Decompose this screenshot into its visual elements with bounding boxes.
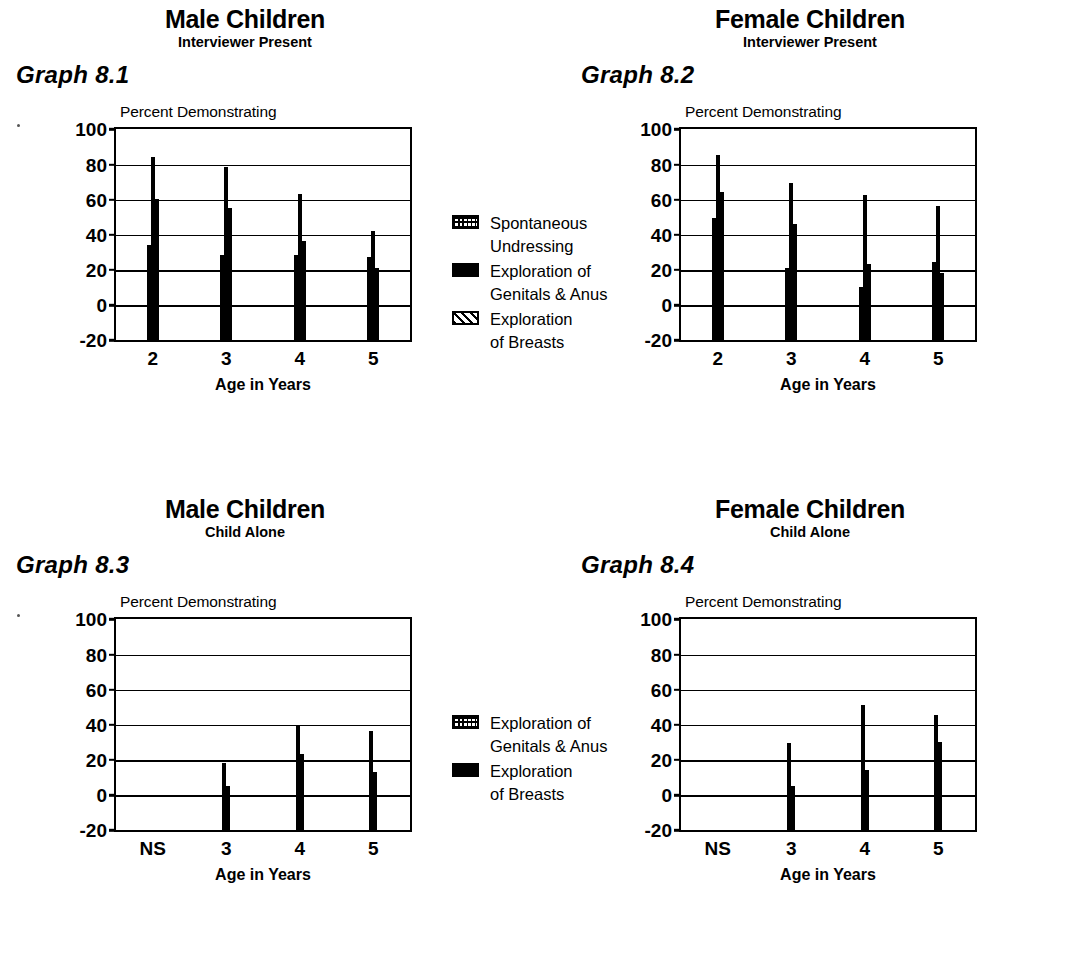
bar (865, 770, 869, 831)
x-axis-title: Age in Years (681, 376, 975, 394)
bar-group (828, 129, 902, 340)
y-axis-tick-mark (109, 724, 116, 726)
bar (940, 273, 944, 341)
x-axis-tick-label: NS (140, 838, 166, 860)
chart-title: Female Children (610, 496, 1010, 522)
x-axis-title: Age in Years (681, 866, 975, 884)
chart-title: Male Children (45, 496, 445, 522)
y-axis-tick-mark (674, 794, 681, 796)
plot-area-wrapper: 100806040200-20NS345Age in Years (62, 617, 412, 832)
y-axis-tick-mark (674, 339, 681, 341)
y-axis-tick-mark (674, 653, 681, 655)
plot-area: 100806040200-20NS345Age in Years (679, 617, 977, 832)
bar-group (190, 619, 264, 830)
x-axis-tick-label: 4 (294, 838, 305, 860)
y-axis-tick-mark (109, 689, 116, 691)
bar-group (190, 129, 264, 340)
plot-area-wrapper: 100806040200-202345Age in Years (62, 127, 412, 342)
y-axis-tick-mark (674, 234, 681, 236)
chart-panel-graph-8-2: Female Children Interviewer Present Grap… (575, 6, 1075, 476)
chart-panel-graph-8-3: Male Children Child Alone Graph 8.3 Perc… (10, 496, 510, 961)
legend-swatch-diag-icon (452, 311, 479, 325)
legend-item-label: Exploration of Breasts (490, 308, 573, 355)
legend-item-label: Exploration of Genitals & Anus (490, 260, 607, 307)
chart-subtitle: Interviewer Present (45, 33, 445, 51)
chart-title-block: Female Children Interviewer Present (610, 6, 1010, 51)
bar-group (755, 129, 829, 340)
y-axis-tick-mark (109, 269, 116, 271)
y-axis-tick-mark (674, 128, 681, 130)
bar (375, 268, 379, 341)
y-axis-tick-mark (109, 829, 116, 831)
bar (228, 208, 232, 341)
figure-sheet: Male Children Interviewer Present Graph … (0, 0, 1075, 961)
y-axis-title: Percent Demonstrating (120, 593, 510, 611)
y-axis-tick-mark (109, 199, 116, 201)
x-axis-tick-label: 5 (368, 838, 379, 860)
x-axis-tick-label: NS (705, 838, 731, 860)
x-axis-tick-label: 3 (221, 348, 232, 370)
bar-group (263, 619, 337, 830)
plot-area: 100806040200-202345Age in Years (679, 127, 977, 342)
y-axis-tick-mark (109, 794, 116, 796)
bar (155, 199, 159, 340)
y-axis-title: Percent Demonstrating (120, 103, 510, 121)
legend-swatch-solid-icon (452, 763, 479, 777)
x-axis-title: Age in Years (116, 376, 410, 394)
bar (226, 786, 230, 831)
legend-child-alone: Exploration of Genitals & AnusExploratio… (452, 712, 607, 808)
bar-group (263, 129, 337, 340)
scan-speck (17, 124, 20, 127)
bar-group (116, 129, 190, 340)
legend-item-label: Spontaneous Undressing (490, 212, 587, 259)
chart-panel-graph-8-4: Female Children Child Alone Graph 8.4 Pe… (575, 496, 1075, 961)
bar-series-container (681, 129, 975, 340)
x-axis-tick-label: 2 (147, 348, 158, 370)
x-axis-tick-label: 5 (933, 348, 944, 370)
x-axis-tick-label: 4 (294, 348, 305, 370)
bar-group (681, 619, 755, 830)
x-axis-tick-label: 3 (786, 838, 797, 860)
y-axis-tick-mark (674, 618, 681, 620)
y-axis-tick-mark (674, 689, 681, 691)
chart-subtitle: Child Alone (45, 523, 445, 541)
plot-area: 100806040200-20NS345Age in Years (114, 617, 412, 832)
graph-number-label: Graph 8.1 (16, 61, 510, 89)
y-axis-tick-mark (674, 269, 681, 271)
y-axis-title: Percent Demonstrating (685, 593, 1075, 611)
bar (867, 264, 871, 340)
y-axis-tick-mark (109, 339, 116, 341)
legend-item-label: Exploration of Genitals & Anus (490, 712, 607, 759)
x-axis-tick-label: 4 (859, 838, 870, 860)
bar-series-container (116, 129, 410, 340)
x-axis-tick-label: 3 (221, 838, 232, 860)
plot-area-wrapper: 100806040200-20NS345Age in Years (627, 617, 977, 832)
plot-area: 100806040200-202345Age in Years (114, 127, 412, 342)
scan-speck (17, 614, 20, 617)
chart-title-block: Male Children Interviewer Present (45, 6, 445, 51)
chart-title: Male Children (45, 6, 445, 32)
legend-item: Exploration of Breasts (452, 760, 607, 807)
graph-number-label: Graph 8.4 (581, 551, 1075, 579)
chart-panel-graph-8-1: Male Children Interviewer Present Graph … (10, 6, 510, 476)
y-axis-tick-mark (674, 829, 681, 831)
y-axis-tick-mark (674, 163, 681, 165)
x-axis-tick-label: 2 (712, 348, 723, 370)
bar (302, 241, 306, 340)
legend-swatch-solid-icon (452, 263, 479, 277)
bar (938, 742, 942, 831)
y-axis-tick-mark (674, 199, 681, 201)
legend-swatch-cross-icon (452, 715, 479, 729)
bar-group (902, 129, 976, 340)
bar-group (755, 619, 829, 830)
y-axis-tick-mark (109, 759, 116, 761)
bar-group (681, 129, 755, 340)
legend-item-label: Exploration of Breasts (490, 760, 573, 807)
x-axis-tick-label: 5 (368, 348, 379, 370)
chart-title-block: Male Children Child Alone (45, 496, 445, 541)
bar (720, 192, 724, 340)
legend-item: Exploration of Genitals & Anus (452, 260, 607, 307)
bar (300, 754, 304, 830)
graph-number-label: Graph 8.2 (581, 61, 1075, 89)
bar-series-container (116, 619, 410, 830)
